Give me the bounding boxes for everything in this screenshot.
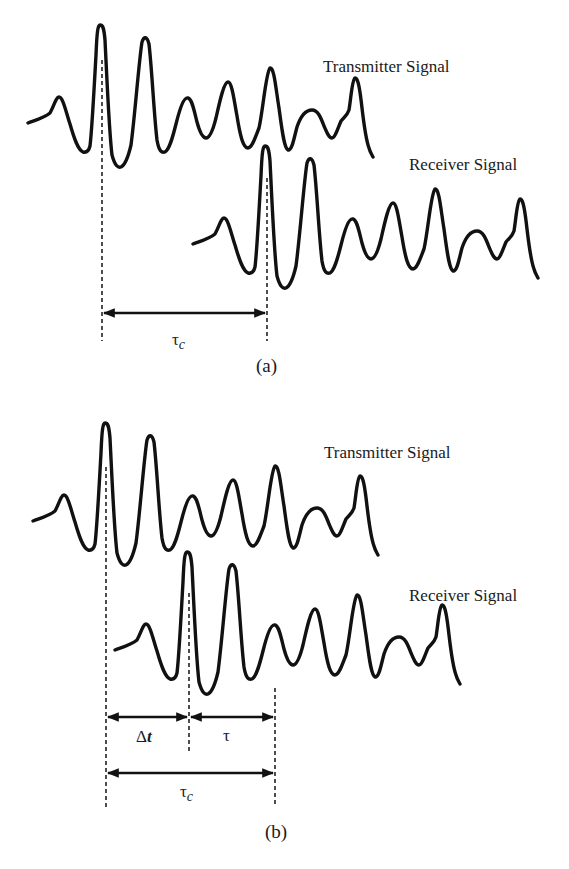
tau-c-label: τc: [172, 330, 186, 352]
transmitter-signal-label: Transmitter Signal: [323, 57, 450, 76]
tau-label: τ: [223, 726, 230, 745]
signal-delay-diagram: Transmitter Signal Receiver Signal τc (a…: [0, 0, 569, 869]
transmitter-waveform: [28, 25, 373, 167]
delta-t-label: Δt: [136, 727, 153, 746]
panel-b: Transmitter Signal Receiver Signal Δt τ …: [33, 423, 517, 843]
receiver-signal-label: Receiver Signal: [409, 586, 517, 605]
tau-c-label: τc: [180, 782, 194, 804]
panel-caption-b: (b): [265, 821, 287, 843]
transmitter-signal-label: Transmitter Signal: [324, 443, 451, 462]
receiver-signal-label: Receiver Signal: [409, 155, 517, 174]
panel-a: Transmitter Signal Receiver Signal τc (a…: [28, 25, 538, 377]
panel-caption-a: (a): [256, 355, 277, 377]
receiver-waveform: [115, 552, 460, 694]
